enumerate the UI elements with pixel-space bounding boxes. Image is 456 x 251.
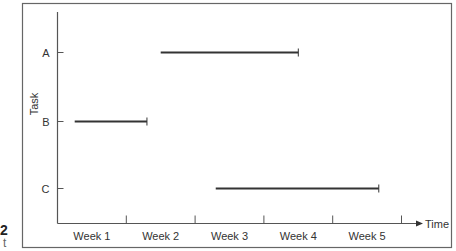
x-tick-label: Week 2 (142, 230, 179, 242)
chart-frame (23, 4, 452, 248)
x-axis-label: Time (425, 218, 449, 230)
gantt-chart: TimeWeek 1Week 2Week 3Week 4Week 5ABCTas… (0, 0, 456, 251)
y-axis-label: Task (28, 92, 40, 115)
x-axis-arrow-icon (416, 221, 423, 227)
y-tick-label: B (42, 116, 49, 128)
x-tick-label: Week 1 (73, 230, 110, 242)
chart-axes: TimeWeek 1Week 2Week 3Week 4Week 5ABCTas… (28, 12, 449, 242)
task-bars (75, 49, 379, 193)
y-tick-label: A (42, 47, 50, 59)
y-tick-label: C (42, 183, 50, 195)
x-tick-label: Week 5 (349, 230, 386, 242)
x-tick-label: Week 4 (280, 230, 317, 242)
x-tick-label: Week 3 (211, 230, 248, 242)
